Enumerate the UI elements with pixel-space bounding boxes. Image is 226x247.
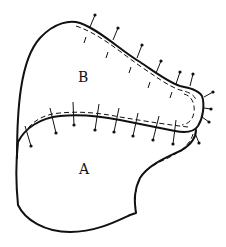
pins-b-top xyxy=(90,13,195,86)
piece-b-seam-line xyxy=(76,26,196,100)
piece-b-outline xyxy=(17,22,203,158)
piece-a-outline xyxy=(17,130,197,232)
piece-a-seam-line xyxy=(135,134,193,212)
piece-b-tip-seam xyxy=(182,94,194,125)
piece-a-label: A xyxy=(78,161,90,177)
pins-tip xyxy=(195,90,215,144)
pins-join xyxy=(25,102,176,148)
sewing-pattern-diagram: B A xyxy=(0,0,226,247)
piece-b-label: B xyxy=(78,69,88,85)
